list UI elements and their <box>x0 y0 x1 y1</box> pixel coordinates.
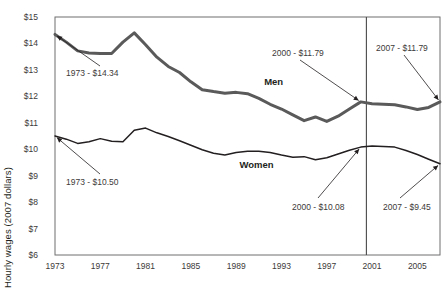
series-label-women: Women <box>240 159 274 170</box>
annotation-men-1973: 1973 - $14.34 <box>66 68 118 78</box>
annotation-women-2000: 2000 - $10.08 <box>292 202 344 212</box>
annotation-men-2007: 2007 - $11.79 <box>376 43 428 53</box>
series-label-men: Men <box>264 76 283 87</box>
annotation-women-2007: 2007 - $9.45 <box>383 202 431 212</box>
annotation-women-1973: 1973 - $10.50 <box>66 177 118 187</box>
annotation-men-2000: 2000 - $11.79 <box>272 48 324 58</box>
